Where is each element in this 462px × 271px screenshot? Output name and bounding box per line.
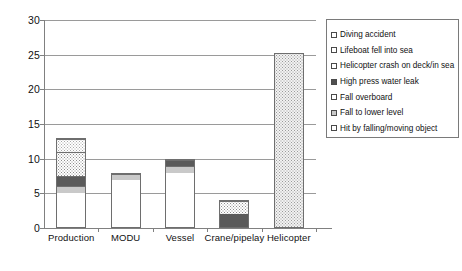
- legend-label: High press water leak: [340, 77, 419, 86]
- bar-segment: [112, 174, 140, 181]
- legend-label: Fall overboard: [340, 93, 392, 102]
- x-axis-tick: [153, 228, 154, 232]
- legend-item[interactable]: Diving accident: [331, 27, 458, 43]
- bar-segment: [57, 139, 85, 153]
- legend-label: Hit by falling/moving object: [340, 124, 437, 133]
- x-axis-tick-label: Helicopter: [267, 232, 311, 243]
- x-axis-tick-label: Crane/pipelay: [204, 232, 264, 243]
- bar-segment: [57, 152, 85, 176]
- chart-screenshot: 051015202530 ProductionMODUVesselCrane/p…: [0, 0, 462, 271]
- y-axis-tick-label: 25: [18, 49, 40, 61]
- x-axis-tick: [316, 228, 317, 232]
- gridline: [44, 20, 316, 21]
- legend-item[interactable]: Lifeboat fell into sea: [331, 43, 458, 59]
- bar-segment: [166, 173, 194, 227]
- y-axis-tick-label: 30: [18, 14, 40, 26]
- bar-segment: [220, 201, 248, 214]
- legend-swatch-icon: [331, 63, 337, 69]
- plot-area: [44, 20, 316, 228]
- bar-segment: [275, 54, 303, 227]
- bar-segment: [57, 176, 85, 186]
- x-axis-tick: [98, 228, 99, 232]
- y-axis-tick-label: 20: [18, 83, 40, 95]
- legend: Diving accidentLifeboat fell into seaHel…: [326, 19, 459, 138]
- bar-crane-pipelay[interactable]: [219, 200, 249, 228]
- y-axis-labels: 051015202530: [14, 20, 40, 228]
- legend-swatch-icon: [331, 110, 337, 116]
- legend-item[interactable]: High press water leak: [331, 74, 458, 90]
- x-axis-line: [44, 228, 332, 229]
- legend-label: Fall to lower level: [340, 108, 403, 117]
- y-axis-line: [44, 20, 45, 229]
- bar-helicopter[interactable]: [274, 53, 304, 228]
- bar-segment: [112, 180, 140, 227]
- legend-label: Lifeboat fell into sea: [340, 46, 413, 55]
- legend-label: Helicopter crash on deck/in sea: [340, 61, 454, 70]
- legend-swatch-icon: [331, 79, 337, 85]
- bar-production[interactable]: [56, 138, 86, 228]
- y-axis-tick-label: 0: [18, 222, 40, 234]
- x-axis-tick-label: Vessel: [166, 232, 195, 243]
- bar-segment: [220, 214, 248, 227]
- legend-item[interactable]: Fall overboard: [331, 89, 458, 105]
- x-axis-tick: [262, 228, 263, 232]
- bar-segment: [57, 193, 85, 227]
- y-axis-tick-label: 10: [18, 153, 40, 165]
- y-axis-tick-label: 15: [18, 118, 40, 130]
- bar-segment: [57, 186, 85, 193]
- bar-vessel[interactable]: [165, 159, 195, 228]
- legend-item[interactable]: Helicopter crash on deck/in sea: [331, 58, 458, 74]
- legend-swatch-icon: [331, 47, 337, 53]
- legend-item[interactable]: Hit by falling/moving object: [331, 121, 458, 137]
- y-axis-tick-label: 5: [18, 187, 40, 199]
- bar-segment: [166, 160, 194, 167]
- legend-label: Diving accident: [340, 30, 396, 39]
- bar-segment: [166, 166, 194, 173]
- legend-item[interactable]: Fall to lower level: [331, 105, 458, 121]
- legend-swatch-icon: [331, 125, 337, 131]
- x-axis-tick-label: MODU: [111, 232, 140, 243]
- legend-swatch-icon: [331, 32, 337, 38]
- legend-swatch-icon: [331, 94, 337, 100]
- x-axis-tick-label: Production: [48, 232, 94, 243]
- bar-modu[interactable]: [111, 173, 141, 228]
